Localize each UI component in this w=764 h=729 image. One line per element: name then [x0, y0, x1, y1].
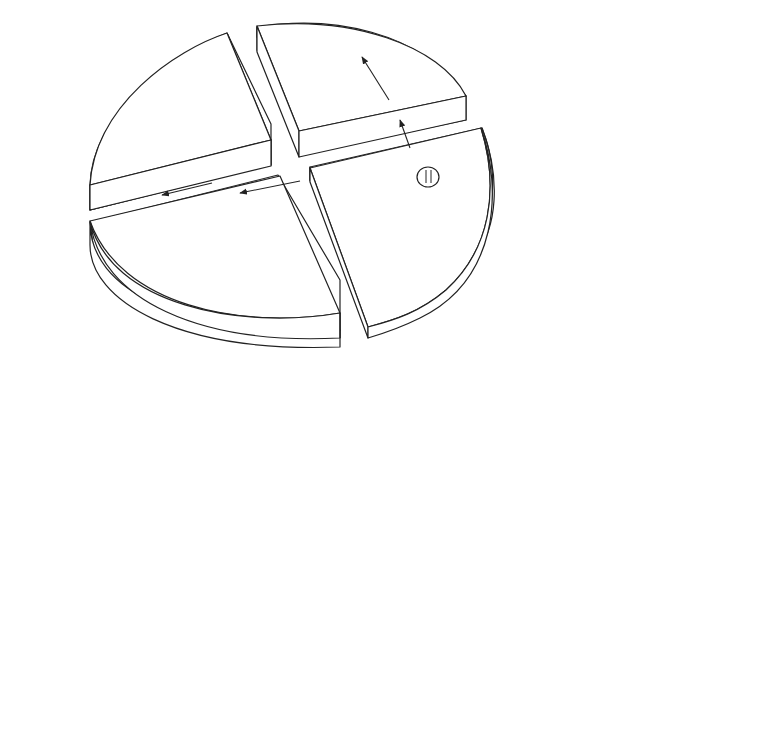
figure-canvas — [0, 0, 764, 729]
center-hole — [417, 167, 439, 187]
